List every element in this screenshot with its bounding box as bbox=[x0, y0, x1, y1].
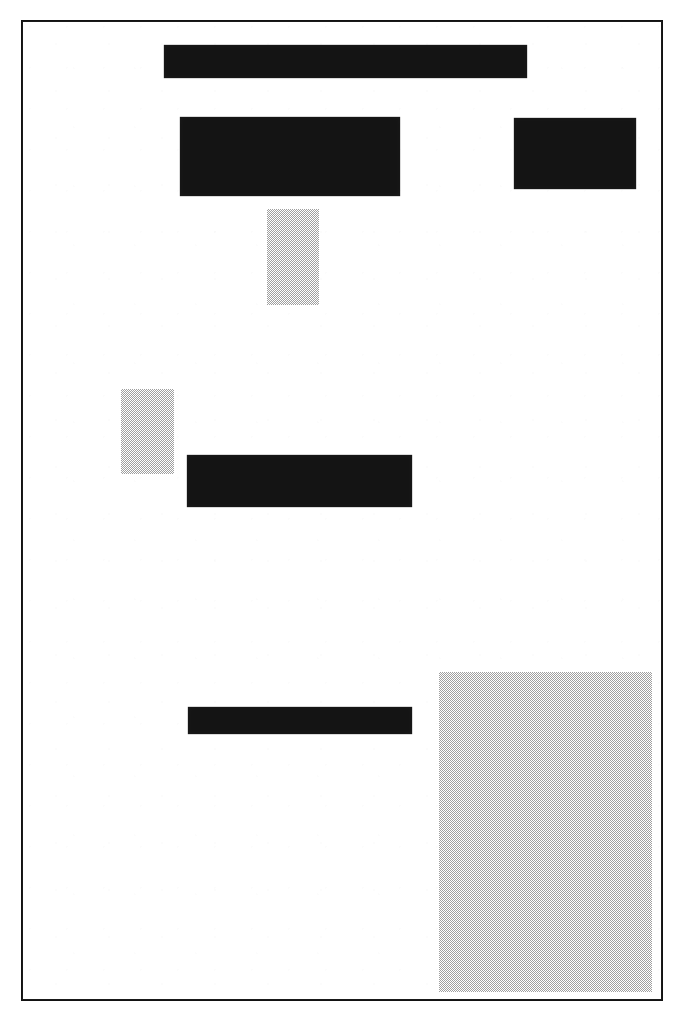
redaction-bar-middle bbox=[187, 455, 412, 507]
page-border-frame bbox=[21, 20, 663, 1001]
redaction-column-left-margin bbox=[121, 389, 174, 474]
redaction-bar-lower bbox=[188, 707, 412, 734]
redaction-block-left bbox=[180, 117, 400, 196]
redaction-panel-bottom-right bbox=[439, 672, 652, 992]
redaction-title-bar bbox=[164, 45, 527, 78]
redaction-block-right bbox=[514, 118, 636, 189]
document-page bbox=[0, 0, 675, 1020]
redaction-column-upper bbox=[267, 209, 319, 305]
